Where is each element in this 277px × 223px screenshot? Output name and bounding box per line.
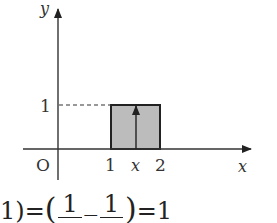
diagram-canvas: y x O 1 1 x 2 [0,0,277,223]
x-tick-2: 2 [155,155,166,175]
y-axis-label: y [39,0,50,18]
x-axis-label: x [238,157,247,176]
formula-open-paren: ( [45,191,57,223]
origin-label: O [36,155,50,175]
fraction-1: 1 [58,191,81,218]
x-tick-x: x [131,156,140,175]
fraction-1-numerator: 1 [58,191,81,218]
y-tick-1: 1 [40,96,51,116]
formula-equals-1: = [25,197,45,223]
formula-equals-2: = [137,197,157,223]
formula-result: 1 [157,197,172,223]
formula-prefix: 1) [0,197,25,223]
formula-minus: — [84,206,98,222]
fraction-2-numerator: 1 [100,191,123,218]
x-tick-1: 1 [105,155,116,175]
formula-line: 1)=(1—1)=1 [0,191,277,223]
fraction-2: 1 [100,191,123,218]
formula-close-paren: ) [125,191,137,223]
